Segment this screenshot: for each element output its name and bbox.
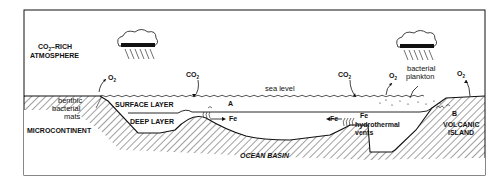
- ocean-diagram: CO2–RICH ATMOSPHERE O2 CO2 sea level SUR…: [0, 0, 503, 180]
- hydrothermal-label-line2: vents: [355, 129, 373, 136]
- co2-center-label: CO2: [186, 71, 200, 80]
- fe-left-label: Fe: [229, 115, 237, 122]
- fe-right-label: Fe: [330, 115, 338, 122]
- o2-right-label: O2: [457, 70, 465, 79]
- point-b-label: B: [452, 110, 457, 117]
- fe-vent-label: Fe: [360, 112, 368, 119]
- atmosphere-label-line1: CO2–RICH: [38, 43, 72, 52]
- point-a-label: A: [228, 100, 233, 107]
- volcanic-label-line2: ISLAND: [448, 129, 474, 136]
- plankton-dots: [379, 99, 440, 105]
- volcanic-label-line1: VOLCANIC: [443, 121, 480, 128]
- o2-left-label: O2: [108, 74, 116, 83]
- sea-level-label: sea level: [265, 84, 295, 93]
- microcontinent-label: MICROCONTINENT: [27, 127, 92, 134]
- ocean-basin-label: OCEAN BASIN: [240, 152, 290, 159]
- surface-layer-label: SURFACE LAYER: [115, 101, 173, 108]
- plankton-label-line2: plankton: [406, 72, 434, 81]
- cloud-right-icon: [397, 31, 437, 61]
- deep-layer-label: DEEP LAYER: [130, 118, 174, 125]
- thermocline-line: [128, 108, 432, 113]
- hydrothermal-label-line1: hydrothermal: [355, 121, 400, 129]
- atmosphere-label-line2: ATMOSPHERE: [30, 52, 79, 59]
- hydrothermal-vent-squiggle: [343, 118, 354, 126]
- co2-right-label: CO2: [338, 71, 352, 80]
- sea-level-line: [100, 95, 424, 97]
- o2-mid-label: O2: [389, 72, 397, 81]
- cloud-left-icon: [118, 30, 158, 60]
- benthic-label-line3: mats: [64, 112, 81, 121]
